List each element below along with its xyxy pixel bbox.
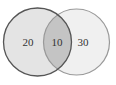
right-only-label: 30	[78, 36, 90, 48]
intersection-label: 10	[52, 36, 64, 48]
left-only-label: 20	[23, 36, 35, 48]
venn-diagram: 20 10 30	[0, 0, 116, 85]
